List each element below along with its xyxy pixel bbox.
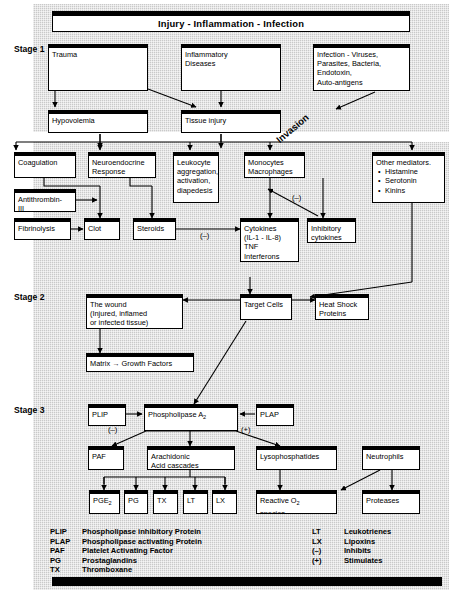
legend-column-right: LT Leukotrienes LX Lipoxins (–) Inhibits… bbox=[312, 527, 391, 565]
legend-definition: Stimulates bbox=[344, 556, 391, 566]
box-paf: PAF bbox=[88, 446, 124, 470]
legend-row: (+) Stimulates bbox=[312, 556, 391, 566]
footer-bar bbox=[52, 577, 442, 586]
reactive-o2-label: Reactive O bbox=[260, 496, 297, 505]
box-tissue-injury: Tissue injury bbox=[181, 110, 281, 133]
legend-definition: Lipoxins bbox=[344, 537, 391, 547]
legend-column-left: PLIP Phospholipase inhibitory Protein PL… bbox=[50, 527, 202, 575]
pge2-label: PGE bbox=[93, 496, 109, 505]
box-trauma: Trauma bbox=[48, 44, 148, 91]
legend: PLIP Phospholipase inhibitory Protein PL… bbox=[50, 527, 445, 575]
box-neuroendocrine-response: Neuroendocrine Response bbox=[88, 152, 156, 178]
phospholipase-label: Phospholipase A bbox=[148, 410, 203, 419]
legend-row: (–) Inhibits bbox=[312, 546, 391, 556]
legend-abbr: LT bbox=[312, 527, 344, 537]
other-mediators-item: Kinins bbox=[385, 186, 441, 195]
box-cytokines: Cytokines (IL-1 - IL-8) TNF Interferons bbox=[240, 218, 299, 262]
other-mediators-list: Histamine Serotonin Kinins bbox=[376, 167, 441, 195]
legend-definition: Platelet Activating Factor bbox=[82, 546, 202, 556]
box-leukocyte-aggregation: Leukocyte aggregation, activation, diape… bbox=[173, 152, 219, 203]
phospholipase-subscript: 2 bbox=[203, 414, 206, 420]
box-plip: PLIP bbox=[88, 404, 126, 426]
box-proteases: Proteases bbox=[362, 490, 420, 514]
legend-abbr: TX bbox=[50, 565, 82, 575]
other-mediators-title: Other mediators. bbox=[376, 158, 441, 167]
box-lt: LT bbox=[183, 490, 208, 514]
box-arachidonic-acid-cascades: Arachidonic Acid cascades bbox=[147, 446, 235, 470]
legend-row: PAF Platelet Activating Factor bbox=[50, 546, 202, 556]
legend-row: PLIP Phospholipase inhibitory Protein bbox=[50, 527, 202, 537]
reactive-o2-tail: species bbox=[260, 509, 285, 514]
legend-definition: Inhibits bbox=[344, 546, 391, 556]
legend-row: TX Thromboxane bbox=[50, 565, 202, 575]
box-lx: LX bbox=[212, 490, 237, 514]
other-mediators-item: Serotonin bbox=[385, 176, 441, 185]
legend-abbr: (–) bbox=[312, 546, 344, 556]
legend-abbr: PLIP bbox=[50, 527, 82, 537]
legend-row: PG Prostaglandins bbox=[50, 556, 202, 566]
box-fibrinolysis: Fibrinolysis bbox=[14, 218, 71, 240]
legend-row: LX Lipoxins bbox=[312, 537, 391, 547]
pge2-subscript: 2 bbox=[109, 500, 112, 506]
other-mediators-item: Histamine bbox=[385, 167, 441, 176]
box-reactive-o2-species: Reactive O2 species bbox=[256, 490, 337, 514]
legend-definition: Leukotrienes bbox=[344, 527, 391, 537]
sign-steroids-inhibits: (–) bbox=[200, 231, 209, 240]
box-phospholipase-a2: Phospholipase A2 bbox=[144, 404, 238, 431]
box-other-mediators: Other mediators. Histamine Serotonin Kin… bbox=[372, 152, 445, 203]
sign-plap-stimulates: (+) bbox=[241, 425, 251, 434]
box-target-cells: Target Cells bbox=[240, 294, 292, 320]
diagram-canvas: Injury - Inflammation - Infection Stage … bbox=[0, 0, 453, 594]
legend-row: PLAP Phospholipase activating Protein bbox=[50, 537, 202, 547]
box-neutrophils: Neutrophils bbox=[362, 446, 420, 470]
box-plap: PLAP bbox=[256, 404, 294, 426]
box-matrix-growth-factors: Matrix → Growth Factors bbox=[86, 353, 194, 372]
box-tx: TX bbox=[153, 490, 178, 514]
legend-definition: Prostaglandins bbox=[82, 556, 202, 566]
box-pge2: PGE2 bbox=[89, 490, 120, 514]
box-coagulation: Coagulation bbox=[14, 152, 76, 178]
box-clot: Clot bbox=[84, 218, 120, 240]
legend-definition: Thromboxane bbox=[82, 565, 202, 575]
box-hypovolemia: Hypovolemia bbox=[48, 110, 148, 133]
legend-abbr: PAF bbox=[50, 546, 82, 556]
legend-abbr: LX bbox=[312, 537, 344, 547]
box-monocytes-macrophages: Monocytes Macrophages bbox=[244, 152, 305, 178]
box-the-wound: The wound (Injured, inflamed or infected… bbox=[86, 294, 183, 329]
sign-plip-inhibits: (–) bbox=[108, 425, 117, 434]
box-infection: Infection - Viruses, Parasites, Bacteria… bbox=[313, 44, 410, 91]
box-steroids: Steroids bbox=[133, 218, 176, 240]
box-pg: PG bbox=[124, 490, 148, 514]
legend-abbr: (+) bbox=[312, 556, 344, 566]
legend-row: LT Leukotrienes bbox=[312, 527, 391, 537]
legend-definition: Phospholipase inhibitory Protein bbox=[82, 527, 202, 537]
legend-abbr: PG bbox=[50, 556, 82, 566]
box-antithrombin-iii: Antithrombin- III bbox=[14, 189, 76, 212]
box-inflammatory-diseases: Inflammatory Diseases bbox=[181, 44, 281, 91]
box-inhibitory-cytokines: Inhibitory cytokines bbox=[307, 218, 356, 243]
sign-inhibitory-cytokines: (–) bbox=[292, 193, 301, 202]
box-lysophosphatides: Lysophosphatides bbox=[256, 446, 337, 470]
box-heat-shock-proteins: Heat Shock Proteins bbox=[315, 294, 369, 320]
legend-abbr: PLAP bbox=[50, 537, 82, 547]
legend-definition: Phospholipase activating Protein bbox=[82, 537, 202, 547]
reactive-o2-subscript: 2 bbox=[297, 500, 300, 506]
